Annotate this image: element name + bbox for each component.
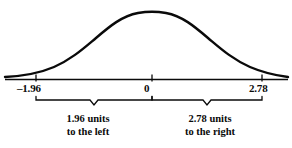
left-bracket-path [36,97,152,106]
right-bracket-caption-line-1: 2.78 units [155,113,265,126]
normal-distribution-figure: –1.96 0 2.78 1.96 units to the left 2.78… [0,0,292,148]
left-bracket-caption-line-1: 1.96 units [38,113,138,126]
left-bracket-caption-line-2: to the left [38,126,138,139]
left-bracket-caption: 1.96 units to the left [38,113,138,138]
axis-tick-label-left: –1.96 [17,83,41,94]
axis-tick-label-right: 2.78 [249,83,267,94]
axis-tick-label-center: 0 [144,83,149,94]
right-bracket-path [152,97,262,106]
normal-curve-path [5,12,288,77]
right-bracket-caption-line-2: to the right [155,126,265,139]
right-bracket-caption: 2.78 units to the right [155,113,265,138]
